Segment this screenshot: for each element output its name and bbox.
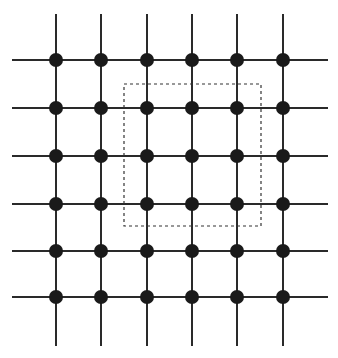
node-r2-c1	[49, 101, 63, 115]
node-r3-c4	[185, 149, 199, 163]
node-r6-c1	[49, 290, 63, 304]
node-r6-c6	[276, 290, 290, 304]
node-r6-c4	[185, 290, 199, 304]
node-r4-c4	[185, 197, 199, 211]
node-r1-c5	[230, 53, 244, 67]
node-r6-c3	[140, 290, 154, 304]
node-r1-c2	[94, 53, 108, 67]
node-r5-c5	[230, 244, 244, 258]
node-r5-c6	[276, 244, 290, 258]
node-r5-c4	[185, 244, 199, 258]
node-r3-c2	[94, 149, 108, 163]
node-r5-c2	[94, 244, 108, 258]
node-r4-c3	[140, 197, 154, 211]
lattice-nodes	[49, 53, 290, 304]
node-r6-c2	[94, 290, 108, 304]
horizontal-grid-lines	[12, 60, 328, 297]
node-r5-c1	[49, 244, 63, 258]
node-r4-c6	[276, 197, 290, 211]
lattice-diagram	[0, 0, 338, 358]
node-r3-c3	[140, 149, 154, 163]
node-r2-c4	[185, 101, 199, 115]
node-r2-c5	[230, 101, 244, 115]
node-r1-c6	[276, 53, 290, 67]
node-r6-c5	[230, 290, 244, 304]
node-r1-c3	[140, 53, 154, 67]
node-r3-c5	[230, 149, 244, 163]
node-r1-c4	[185, 53, 199, 67]
node-r4-c2	[94, 197, 108, 211]
node-r5-c3	[140, 244, 154, 258]
node-r2-c3	[140, 101, 154, 115]
node-r2-c2	[94, 101, 108, 115]
node-r3-c6	[276, 149, 290, 163]
node-r2-c6	[276, 101, 290, 115]
node-r3-c1	[49, 149, 63, 163]
node-r1-c1	[49, 53, 63, 67]
node-r4-c5	[230, 197, 244, 211]
node-r4-c1	[49, 197, 63, 211]
